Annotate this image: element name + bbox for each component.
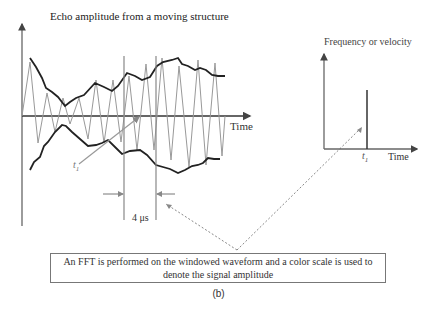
right-y-axis-label: Frequency or velocity <box>324 36 412 47</box>
caption-box: An FFT is performed on the windowed wave… <box>50 253 386 283</box>
t1-pointer-arrow <box>79 117 139 164</box>
window-width-label: 4 μs <box>132 212 149 223</box>
caption-line-2: denote the signal amplitude <box>51 268 385 281</box>
caption-line-1: An FFT is performed on the windowed wave… <box>51 255 385 268</box>
left-panel-title: Echo amplitude from a moving structure <box>50 10 229 22</box>
panel-label: (b) <box>0 288 437 299</box>
dashed-arrow-to-spectrum <box>237 127 362 250</box>
dashed-arrow-to-window <box>166 204 237 250</box>
t1-subscript: 1 <box>76 165 80 173</box>
left-x-axis-label: Time <box>230 120 253 132</box>
left-t1-label: t1 <box>73 159 79 173</box>
right-t1-label: t1 <box>362 150 368 164</box>
t1-subscript: 1 <box>365 156 369 164</box>
right-x-axis-label: Time <box>388 151 409 162</box>
